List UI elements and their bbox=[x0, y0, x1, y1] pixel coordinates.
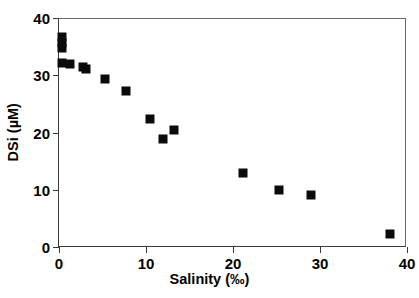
data-point bbox=[307, 191, 316, 200]
y-tick-label-0: 0 bbox=[42, 240, 50, 255]
data-point bbox=[81, 64, 90, 73]
x-tick-label-20: 20 bbox=[225, 256, 242, 271]
data-point bbox=[146, 115, 155, 124]
x-axis-title: Salinity (‰) bbox=[0, 272, 419, 287]
x-tick-0 bbox=[59, 247, 60, 253]
chart-figure: 010203040 010203040 DSi (µM) Salinity (‰… bbox=[0, 0, 419, 298]
data-point bbox=[239, 169, 248, 178]
x-tick-label-0: 0 bbox=[55, 256, 63, 271]
y-tick-label-40: 40 bbox=[33, 11, 50, 26]
plot-area: 010203040 010203040 bbox=[58, 18, 406, 247]
data-point bbox=[385, 229, 394, 238]
y-tick-20 bbox=[53, 133, 59, 134]
data-point bbox=[275, 185, 284, 194]
data-point bbox=[66, 59, 75, 68]
y-tick-label-20: 20 bbox=[33, 125, 50, 140]
y-axis-title: DSi (µM) bbox=[2, 0, 24, 265]
data-point bbox=[158, 134, 167, 143]
y-tick-label-10: 10 bbox=[33, 182, 50, 197]
y-tick-40 bbox=[53, 18, 59, 19]
x-tick-30 bbox=[320, 247, 321, 253]
x-tick-label-10: 10 bbox=[138, 256, 155, 271]
data-point bbox=[121, 86, 130, 95]
y-tick-10 bbox=[53, 190, 59, 191]
y-tick-30 bbox=[53, 75, 59, 76]
x-tick-20 bbox=[233, 247, 234, 253]
y-tick-label-30: 30 bbox=[33, 68, 50, 83]
y-axis-title-text: DSi (µM) bbox=[6, 103, 21, 161]
x-tick-label-30: 30 bbox=[312, 256, 329, 271]
x-tick-40 bbox=[407, 247, 408, 253]
data-point bbox=[101, 74, 110, 83]
x-tick-label-40: 40 bbox=[399, 256, 416, 271]
x-tick-10 bbox=[146, 247, 147, 253]
data-point bbox=[57, 44, 66, 53]
data-point bbox=[169, 126, 178, 135]
